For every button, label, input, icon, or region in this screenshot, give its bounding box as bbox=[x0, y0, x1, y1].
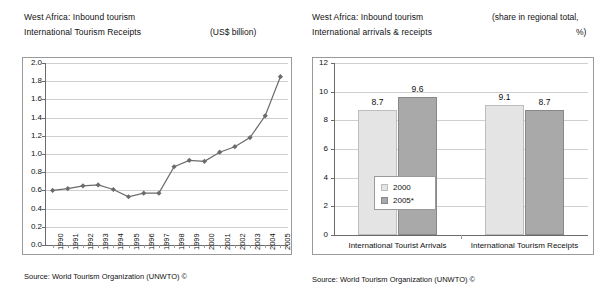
x-tick-mark bbox=[53, 245, 54, 248]
bar-value-label: 9.6 bbox=[392, 84, 443, 94]
x-tick-label: 1995 bbox=[132, 233, 141, 250]
y-tick-label: 1.8 bbox=[24, 76, 42, 85]
y-tick-label: 0.2 bbox=[24, 222, 42, 231]
y-tick-mark bbox=[331, 206, 334, 207]
y-tick-label: 10 bbox=[314, 87, 328, 96]
receipts-line-series bbox=[45, 63, 288, 245]
x-tick-label: 1997 bbox=[162, 233, 171, 250]
y-tick-label: 8 bbox=[314, 115, 328, 124]
legend-swatch-2005 bbox=[381, 197, 388, 204]
chart-page: West Africa: Inbound tourism Internation… bbox=[0, 0, 604, 297]
data-point-marker bbox=[65, 186, 70, 191]
category-label: International Tourism Receipts bbox=[461, 241, 588, 250]
right-unit-note-line2: %) bbox=[576, 27, 586, 37]
bar-2005-receipts bbox=[525, 110, 564, 235]
y-tick-mark bbox=[42, 190, 45, 191]
left-source-note: Source: World Tourism Organization (UNWT… bbox=[24, 272, 187, 281]
y-tick-label: 1.2 bbox=[24, 131, 42, 140]
x-tick-label: 2000 bbox=[207, 233, 216, 250]
data-point-marker bbox=[96, 182, 101, 187]
x-tick-mark bbox=[174, 245, 175, 248]
x-tick-label: 1998 bbox=[177, 233, 186, 250]
x-tick-label: 1991 bbox=[71, 233, 80, 250]
y-tick-mark bbox=[42, 81, 45, 82]
legend-swatch-2000 bbox=[381, 184, 388, 191]
gridline bbox=[334, 63, 588, 64]
data-point-marker bbox=[278, 74, 283, 79]
y-tick-label: 0.6 bbox=[24, 185, 42, 194]
right-source-note: Source: World Tourism Organization (UNWT… bbox=[312, 275, 475, 284]
x-tick-label: 1996 bbox=[147, 233, 156, 250]
x-tick-mark bbox=[250, 245, 251, 248]
data-point-marker bbox=[202, 159, 207, 164]
data-point-marker bbox=[50, 188, 55, 193]
category-label: International Tourist Arrivals bbox=[334, 241, 461, 250]
data-point-marker bbox=[171, 164, 176, 169]
y-tick-label: 1.4 bbox=[24, 113, 42, 122]
right-unit-note-line1: (share in regional total, bbox=[492, 12, 578, 22]
legend-item-2000: 2000 bbox=[381, 181, 429, 194]
y-tick-mark bbox=[42, 99, 45, 100]
legend-label-2000: 2000 bbox=[393, 183, 411, 192]
bar-value-label: 8.7 bbox=[352, 97, 403, 107]
data-point-marker bbox=[187, 158, 192, 163]
left-unit-note: (US$ billion) bbox=[210, 27, 256, 37]
x-tick-label: 1990 bbox=[56, 233, 65, 250]
right-title-line1: West Africa: Inbound tourism bbox=[312, 12, 423, 22]
bar-2005-arrivals bbox=[398, 97, 437, 235]
x-tick-label: 2001 bbox=[223, 233, 232, 250]
x-tick-label: 2003 bbox=[253, 233, 262, 250]
y-tick-label: 6 bbox=[314, 144, 328, 153]
y-tick-mark bbox=[42, 172, 45, 173]
bar-value-label: 8.7 bbox=[519, 97, 570, 107]
x-tick-mark bbox=[83, 245, 84, 248]
x-tick-label: 1992 bbox=[86, 233, 95, 250]
y-tick-label: 12 bbox=[314, 58, 328, 67]
y-tick-mark bbox=[42, 154, 45, 155]
left-title-line2: International Tourism Receipts bbox=[24, 27, 141, 37]
gridline bbox=[334, 92, 588, 93]
y-tick-label: 1.6 bbox=[24, 94, 42, 103]
x-tick-mark bbox=[144, 245, 145, 248]
y-tick-mark bbox=[42, 63, 45, 64]
x-tick-label: 2002 bbox=[238, 233, 247, 250]
y-axis-line bbox=[334, 63, 335, 235]
x-tick-mark bbox=[280, 245, 281, 248]
data-point-marker bbox=[156, 191, 161, 196]
y-tick-mark bbox=[42, 136, 45, 137]
data-point-marker bbox=[141, 191, 146, 196]
right-title-line2: International arrivals & receipts bbox=[312, 27, 432, 37]
y-tick-mark bbox=[331, 178, 334, 179]
y-tick-label: 0 bbox=[314, 230, 328, 239]
y-tick-mark bbox=[331, 235, 334, 236]
x-tick-mark bbox=[129, 245, 130, 248]
x-tick-label: 1994 bbox=[116, 233, 125, 250]
y-tick-mark bbox=[331, 149, 334, 150]
right-chart-panel: West Africa: Inbound tourism Internation… bbox=[302, 0, 604, 297]
x-tick-mark bbox=[204, 245, 205, 248]
y-tick-mark bbox=[331, 63, 334, 64]
x-tick-mark bbox=[189, 245, 190, 248]
y-tick-label: 2.0 bbox=[24, 58, 42, 67]
left-plot-area bbox=[45, 63, 288, 245]
y-tick-mark bbox=[42, 118, 45, 119]
left-chart-panel: West Africa: Inbound tourism Internation… bbox=[0, 0, 302, 297]
x-tick-mark bbox=[113, 245, 114, 248]
legend-label-2005: 2005* bbox=[393, 196, 414, 205]
y-tick-mark bbox=[331, 120, 334, 121]
y-tick-label: 2 bbox=[314, 201, 328, 210]
y-tick-label: 0.0 bbox=[24, 240, 42, 249]
bar-2000-receipts bbox=[485, 105, 524, 235]
y-tick-mark bbox=[42, 227, 45, 228]
y-tick-label: 1.0 bbox=[24, 149, 42, 158]
legend-item-2005: 2005* bbox=[381, 194, 429, 207]
x-tick-label: 1993 bbox=[101, 233, 110, 250]
data-point-marker bbox=[111, 187, 116, 192]
y-tick-label: 4 bbox=[314, 173, 328, 182]
x-tick-mark bbox=[68, 245, 69, 248]
data-point-marker bbox=[126, 194, 131, 199]
y-tick-mark bbox=[42, 209, 45, 210]
x-tick-mark bbox=[220, 245, 221, 248]
y-tick-label: 0.8 bbox=[24, 167, 42, 176]
x-tick-label: 2004 bbox=[268, 233, 277, 250]
